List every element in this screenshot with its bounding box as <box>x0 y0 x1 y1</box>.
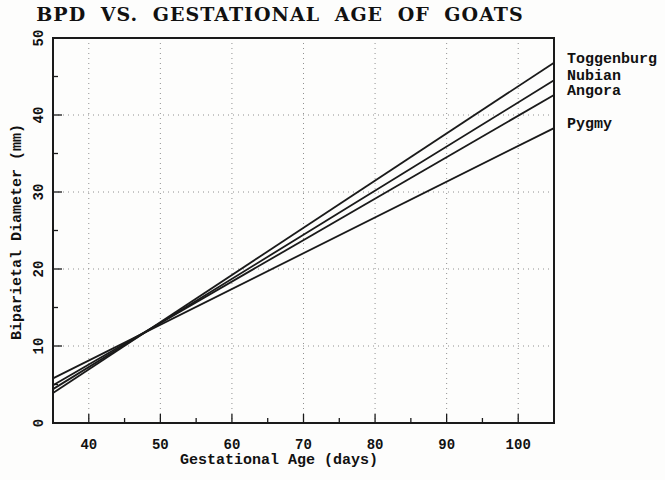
legend-label-toggenburg: Toggenburg <box>567 51 657 69</box>
x-tick-label: 90 <box>438 437 455 453</box>
chart: BPD VS. GESTATIONAL AGE OF GOATS 4050607… <box>0 0 665 480</box>
y-tick-label: 0 <box>31 419 47 427</box>
x-tick-label: 40 <box>80 437 97 453</box>
x-axis-label: Gestational Age (days) <box>129 452 429 469</box>
y-tick-label: 50 <box>31 30 47 47</box>
plot-frame <box>53 38 554 423</box>
legend-label-angora: Angora <box>567 83 621 101</box>
series-line-nubian <box>53 80 554 389</box>
x-tick-label: 50 <box>152 437 169 453</box>
legend-label-pygmy: Pygmy <box>567 116 612 134</box>
x-tick-label: 100 <box>506 437 531 453</box>
x-tick-label: 80 <box>367 437 384 453</box>
series-line-pygmy <box>53 128 554 378</box>
plot-area: 40506070809010001020304050 <box>0 0 665 480</box>
y-tick-label: 40 <box>31 107 47 124</box>
y-axis-label: Biparietal Diameter (mm) <box>9 32 29 432</box>
x-tick-label: 70 <box>295 437 312 453</box>
y-tick-label: 10 <box>31 338 47 355</box>
y-tick-label: 30 <box>31 184 47 201</box>
y-tick-label: 20 <box>31 261 47 278</box>
x-tick-label: 60 <box>224 437 241 453</box>
